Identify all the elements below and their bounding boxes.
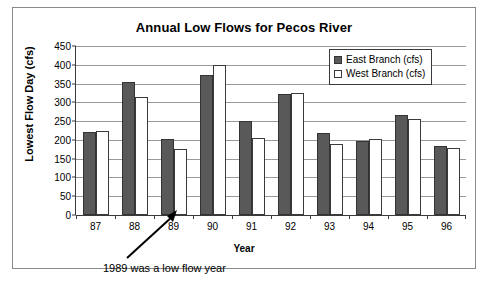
bar-89-east[interactable] [161, 139, 174, 215]
y-tick-label: 50 [60, 191, 71, 202]
x-tick-mark [310, 215, 311, 219]
bar-group-90 [193, 46, 232, 215]
y-tick-label: 400 [54, 59, 71, 70]
y-tick-label: 450 [54, 41, 71, 52]
bar-95-east[interactable] [395, 115, 408, 215]
y-tick-label: 150 [54, 153, 71, 164]
bar-88-west[interactable] [135, 97, 148, 215]
bar-group-88 [115, 46, 154, 215]
x-tick-mark [465, 215, 466, 219]
legend-label-west: West Branch (cfs) [346, 67, 425, 81]
bar-87-west[interactable] [96, 131, 109, 215]
bar-93-west[interactable] [330, 144, 343, 215]
x-tick-mark [388, 215, 389, 219]
y-tick-label: 250 [54, 116, 71, 127]
bar-94-west[interactable] [369, 139, 382, 215]
x-tick-mark [232, 215, 233, 219]
y-tick-label: 100 [54, 172, 71, 183]
x-tick-mark [154, 215, 155, 219]
x-tick-label-91: 91 [232, 221, 271, 232]
bar-90-east[interactable] [200, 75, 213, 215]
x-tick-label-89: 89 [154, 221, 193, 232]
x-tick-mark [271, 215, 272, 219]
x-tick-mark [427, 215, 428, 219]
bar-89-west[interactable] [174, 149, 187, 215]
legend-swatch-west-icon [334, 70, 342, 78]
x-tick-label-88: 88 [115, 221, 154, 232]
x-tick-label-87: 87 [76, 221, 115, 232]
x-tick-label-94: 94 [349, 221, 388, 232]
bar-90-west[interactable] [213, 65, 226, 215]
legend-item-west: West Branch (cfs) [334, 67, 425, 81]
bar-92-east[interactable] [278, 94, 291, 215]
x-tick-label-95: 95 [388, 221, 427, 232]
x-axis-tick-labels: 87888990919293949596 [76, 221, 466, 232]
bar-87-east[interactable] [83, 132, 96, 215]
y-tick-label: 0 [65, 210, 71, 221]
bar-96-west[interactable] [447, 148, 460, 215]
x-tick-label-93: 93 [310, 221, 349, 232]
x-tick-label-90: 90 [193, 221, 232, 232]
bar-92-west[interactable] [291, 93, 304, 215]
x-tick-label-96: 96 [427, 221, 466, 232]
legend-swatch-east-icon [334, 56, 342, 64]
legend-item-east: East Branch (cfs) [334, 53, 425, 67]
y-axis-title: Lowest Flow Day (cfs) [23, 24, 35, 184]
bar-group-91 [232, 46, 271, 215]
bar-91-east[interactable] [239, 121, 252, 215]
bar-94-east[interactable] [356, 141, 369, 215]
x-tick-mark [349, 215, 350, 219]
bar-group-96 [427, 46, 466, 215]
bar-91-west[interactable] [252, 138, 265, 215]
chart-frame: Annual Low Flows for Pecos River Lowest … [12, 7, 476, 269]
bar-88-east[interactable] [122, 82, 135, 215]
x-tick-label-92: 92 [271, 221, 310, 232]
x-axis-title: Year [13, 243, 475, 254]
bar-96-east[interactable] [434, 146, 447, 215]
legend-label-east: East Branch (cfs) [346, 53, 423, 67]
annotation-arrow-icon [123, 208, 183, 263]
bar-group-87 [76, 46, 115, 215]
bar-group-92 [271, 46, 310, 215]
y-tick-label: 200 [54, 134, 71, 145]
bar-95-west[interactable] [408, 119, 421, 215]
y-tick-label: 350 [54, 78, 71, 89]
bar-group-89 [154, 46, 193, 215]
chart-legend: East Branch (cfs) West Branch (cfs) [329, 49, 432, 85]
x-tick-mark [76, 215, 77, 219]
y-tick-label: 300 [54, 97, 71, 108]
bar-93-east[interactable] [317, 133, 330, 215]
x-tick-mark [193, 215, 194, 219]
annotation-label: 1989 was a low flow year [103, 262, 226, 274]
chart-title: Annual Low Flows for Pecos River [13, 20, 475, 35]
x-tick-mark [115, 215, 116, 219]
